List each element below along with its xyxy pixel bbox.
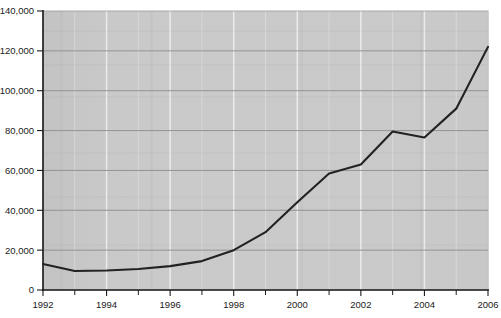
y-axis-tick-label: 20,000 [5,245,34,256]
x-axis-ticks: 19921994199619982000200220042006 [32,290,498,310]
chart-svg: 020,00040,00060,00080,000100,000120,0001… [0,0,501,318]
y-axis-tick-label: 60,000 [5,165,34,176]
y-axis-tick-label: 40,000 [5,205,34,216]
x-axis-tick-label: 2000 [287,299,308,310]
x-axis-tick-label: 1992 [32,299,53,310]
y-axis-tick-label: 100,000 [0,85,34,96]
y-axis-tick-label: 140,000 [0,5,34,16]
y-axis-tick-label: 80,000 [5,125,34,136]
x-axis-tick-label: 2004 [414,299,435,310]
x-axis-tick-label: 1994 [96,299,117,310]
y-axis-ticks: 020,00040,00060,00080,000100,000120,0001… [0,5,43,295]
line-chart-figure: 020,00040,00060,00080,000100,000120,0001… [0,0,501,318]
x-axis-tick-label: 2002 [350,299,371,310]
x-axis-tick-label: 1996 [160,299,181,310]
x-axis-tick-label: 1998 [223,299,244,310]
x-axis-tick-label: 2006 [477,299,498,310]
y-axis-tick-label: 0 [29,284,34,295]
y-axis-tick-label: 120,000 [0,45,34,56]
